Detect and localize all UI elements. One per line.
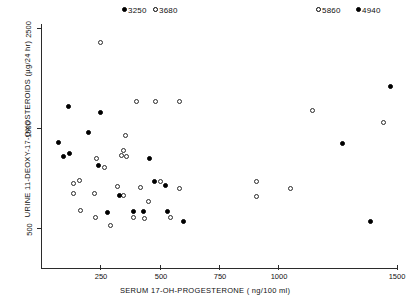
data-point-filled xyxy=(181,219,186,224)
data-point-open xyxy=(94,156,99,161)
data-point-filled xyxy=(340,141,345,146)
data-point-open xyxy=(146,199,151,204)
data-point-filled xyxy=(147,156,152,161)
data-point-filled xyxy=(61,154,66,159)
data-point-open xyxy=(153,99,158,104)
data-point-filled xyxy=(141,209,146,214)
data-point-open xyxy=(131,215,136,220)
data-point-open xyxy=(123,133,128,138)
data-point-open xyxy=(98,40,103,45)
data-point-filled xyxy=(388,84,393,89)
data-point-filled xyxy=(105,210,110,215)
data-point-filled xyxy=(56,140,61,145)
data-point-open xyxy=(168,215,173,220)
data-point-filled xyxy=(131,209,136,214)
data-point-open xyxy=(142,216,147,221)
data-points-layer xyxy=(0,0,408,306)
data-point-open xyxy=(288,186,293,191)
scatter-plot-figure: 3250 3680 5860 4940 2500 1500 500 URINE … xyxy=(0,0,408,306)
data-point-filled xyxy=(163,183,168,188)
data-point-open xyxy=(115,184,120,189)
data-point-filled xyxy=(368,219,373,224)
data-point-open xyxy=(381,120,386,125)
data-point-open xyxy=(78,208,83,213)
data-point-filled xyxy=(98,110,103,115)
data-point-filled xyxy=(165,209,170,214)
data-point-open xyxy=(124,154,129,159)
data-point-open xyxy=(134,99,139,104)
data-point-open xyxy=(77,178,82,183)
data-point-filled xyxy=(67,151,72,156)
data-point-open xyxy=(254,194,259,199)
data-point-filled xyxy=(96,163,101,168)
data-point-filled xyxy=(66,104,71,109)
data-point-open xyxy=(177,186,182,191)
data-point-open xyxy=(158,179,163,184)
data-point-filled xyxy=(117,193,122,198)
data-point-filled xyxy=(86,130,91,135)
data-point-filled xyxy=(152,179,157,184)
data-point-open xyxy=(93,215,98,220)
data-point-open xyxy=(310,108,315,113)
data-point-open xyxy=(92,191,97,196)
data-point-open xyxy=(108,223,113,228)
data-point-open xyxy=(121,148,126,153)
data-point-open xyxy=(102,165,107,170)
data-point-open xyxy=(254,179,259,184)
data-point-open xyxy=(177,99,182,104)
data-point-open xyxy=(138,185,143,190)
data-point-open xyxy=(71,191,76,196)
data-point-open xyxy=(71,181,76,186)
